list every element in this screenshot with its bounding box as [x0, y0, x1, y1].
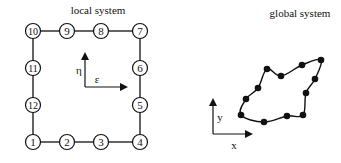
- local-node-6: 6: [133, 61, 148, 76]
- global-node-4: [300, 112, 307, 119]
- global-node-2: [261, 119, 268, 126]
- node-label: 12: [28, 100, 38, 111]
- node-label: 3: [98, 136, 104, 148]
- global-node-7: [318, 57, 325, 64]
- global-node-10: [264, 66, 271, 73]
- local-node-9: 9: [60, 24, 75, 39]
- local-node-5: 5: [133, 98, 148, 113]
- local-node-1: 1: [26, 135, 41, 150]
- node-label: 6: [137, 62, 143, 74]
- global-node-8: [299, 62, 306, 69]
- global-node-12: [243, 96, 250, 103]
- node-label: 5: [137, 99, 143, 111]
- node-label: 1: [30, 136, 36, 148]
- local-system-title: local system: [71, 4, 126, 16]
- node-label: 4: [137, 136, 143, 148]
- node-label: 8: [98, 25, 104, 37]
- local-node-4: 4: [133, 135, 148, 150]
- global-nodes: [238, 57, 325, 126]
- global-node-9: [278, 73, 285, 80]
- diagram-canvas: local system 123456789101112 η ε global …: [0, 0, 341, 163]
- global-node-3: [284, 113, 291, 120]
- local-node-10: 10: [26, 24, 41, 39]
- global-node-6: [312, 76, 319, 83]
- local-node-8: 8: [94, 24, 109, 39]
- global-node-11: [255, 85, 262, 92]
- local-node-3: 3: [94, 135, 109, 150]
- node-label: 2: [64, 136, 70, 148]
- global-system-title: global system: [270, 7, 331, 19]
- epsilon-axis-label: ε: [95, 73, 100, 85]
- local-node-2: 2: [60, 135, 75, 150]
- global-element-boundary: [240, 59, 322, 122]
- global-node-5: [303, 90, 310, 97]
- global-system: global system y x: [213, 7, 331, 151]
- x-axis-label: x: [231, 139, 237, 151]
- node-label: 10: [28, 26, 38, 37]
- local-system: local system 123456789101112 η ε: [26, 4, 148, 150]
- node-label: 9: [64, 25, 70, 37]
- node-label: 11: [28, 63, 38, 74]
- local-node-7: 7: [133, 24, 148, 39]
- y-axis-label: y: [217, 111, 223, 123]
- local-node-12: 12: [26, 98, 41, 113]
- local-node-11: 11: [26, 61, 41, 76]
- eta-axis-label: η: [76, 64, 82, 76]
- node-label: 7: [137, 25, 143, 37]
- global-node-1: [238, 112, 245, 119]
